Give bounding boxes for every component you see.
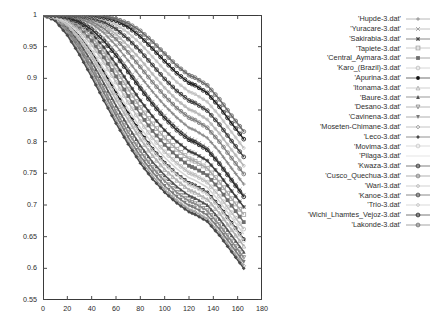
legend-key-star-icon bbox=[405, 34, 431, 44]
legend-label: 'Itonama-3.dat' bbox=[353, 84, 405, 91]
legend-key-triangle-filled-icon bbox=[405, 92, 431, 102]
plot-area bbox=[43, 15, 262, 300]
legend-entry: 'Baure-3.dat' bbox=[268, 92, 431, 102]
chart-legend: 'Hupde-3.dat''Yuracare-3.dat''Sakirabia-… bbox=[268, 14, 431, 224]
legend-label: 'Cusco_Quechua-3.dat' bbox=[325, 172, 405, 179]
y-tick-label: 0.7 bbox=[0, 201, 37, 208]
legend-label: 'Karo_(Brazil)-3.dat' bbox=[337, 64, 405, 71]
legend-key-triangle-open-icon bbox=[405, 83, 431, 93]
legend-key-circle-open-icon bbox=[405, 63, 431, 73]
legend-label: 'Desano-3.dat' bbox=[354, 103, 405, 110]
legend-key-square-filled-icon bbox=[405, 53, 431, 63]
legend-key-square-open-icon bbox=[405, 43, 431, 53]
legend-key-circle-dot-icon bbox=[405, 190, 431, 200]
legend-label: 'Tapiete-3.dat' bbox=[356, 45, 405, 52]
legend-entry: 'Central_Aymara-3.dat' bbox=[268, 53, 431, 63]
legend-key-circle-dot-icon bbox=[405, 171, 431, 181]
legend-label: 'Baure-3.dat' bbox=[360, 94, 405, 101]
legend-entry: 'Desano-3.dat' bbox=[268, 102, 431, 112]
legend-label: 'Pilaga-3.dat' bbox=[359, 152, 405, 159]
legend-label: 'Kwaza-3.dat' bbox=[358, 162, 405, 169]
legend-key-circle-dot-icon bbox=[405, 210, 431, 220]
curve-layer bbox=[43, 15, 262, 300]
y-tick-label: 0.95 bbox=[0, 43, 37, 50]
legend-label: 'Wari-3.dat' bbox=[365, 182, 405, 189]
legend-entry: 'Pilaga-3.dat' bbox=[268, 151, 431, 161]
legend-entry: 'Kanoe-3.dat' bbox=[268, 190, 431, 200]
legend-entry: 'Sakirabia-3.dat' bbox=[268, 34, 431, 44]
y-tick-label: 0.75 bbox=[0, 169, 37, 176]
legend-entry: 'Wari-3.dat' bbox=[268, 181, 431, 191]
legend-key-diamond-filled-icon bbox=[405, 132, 431, 142]
legend-label: 'Sakirabia-3.dat' bbox=[349, 35, 405, 42]
legend-label: 'Hupde-3.dat' bbox=[358, 15, 405, 22]
legend-entry: 'Wichi_Lhamtes_Vejoz-3.dat' bbox=[268, 210, 431, 220]
legend-key-circle-dot-icon bbox=[405, 220, 431, 230]
legend-key-pentagon-open-icon bbox=[405, 141, 431, 151]
y-tick-label: 0.55 bbox=[0, 296, 37, 303]
legend-label: 'Lakonde-3.dat' bbox=[352, 221, 405, 228]
x-tick-label: 180 bbox=[248, 305, 276, 312]
legend-key-circle-small-icon bbox=[405, 181, 431, 191]
legend-key-down-triangle-open-icon bbox=[405, 102, 431, 112]
legend-label: 'Kanoe-3.dat' bbox=[358, 192, 405, 199]
legend-entry: 'Moseten-Chimane-3.dat' bbox=[268, 122, 431, 132]
legend-key-plus-icon bbox=[405, 14, 431, 24]
y-tick-label: 0.9 bbox=[0, 74, 37, 81]
legend-entry: 'Itonama-3.dat' bbox=[268, 83, 431, 93]
legend-entry: 'Kwaza-3.dat' bbox=[268, 161, 431, 171]
legend-entry: 'Karo_(Brazil)-3.dat' bbox=[268, 63, 431, 73]
chart-screenshot: 0.550.60.650.70.750.80.850.90.951 020406… bbox=[0, 0, 431, 329]
legend-entry: 'Leco-3.dat' bbox=[268, 132, 431, 142]
legend-entry: 'Yuracare-3.dat' bbox=[268, 24, 431, 34]
legend-entry: 'Cusco_Quechua-3.dat' bbox=[268, 171, 431, 181]
y-tick-label: 1 bbox=[0, 11, 37, 18]
legend-label: 'Trio-3.dat' bbox=[367, 201, 405, 208]
legend-label: 'Moseten-Chimane-3.dat' bbox=[320, 123, 405, 130]
y-tick-label: 0.65 bbox=[0, 233, 37, 240]
legend-entry: 'Trio-3.dat' bbox=[268, 200, 431, 210]
legend-entry: 'Tapiete-3.dat' bbox=[268, 43, 431, 53]
y-tick-label: 0.6 bbox=[0, 264, 37, 271]
legend-label: 'Wichi_Lhamtes_Vejoz-3.dat' bbox=[308, 211, 405, 218]
legend-entry: 'Apurina-3.dat' bbox=[268, 73, 431, 83]
legend-key-circle-small-icon bbox=[405, 200, 431, 210]
legend-label: 'Leco-3.dat' bbox=[364, 133, 405, 140]
legend-entry: 'Hupde-3.dat' bbox=[268, 14, 431, 24]
legend-key-circle-dot-icon bbox=[405, 161, 431, 171]
legend-key-circle-filled-icon bbox=[405, 73, 431, 83]
legend-entry: 'Cavinena-3.dat' bbox=[268, 112, 431, 122]
legend-label: 'Cavinena-3.dat' bbox=[349, 113, 405, 120]
legend-label: 'Yuracare-3.dat' bbox=[350, 25, 405, 32]
legend-key-down-triangle-filled-icon bbox=[405, 112, 431, 122]
y-tick-label: 0.85 bbox=[0, 106, 37, 113]
legend-label: 'Movima-3.dat' bbox=[354, 143, 405, 150]
legend-entry: 'Lakonde-3.dat' bbox=[268, 220, 431, 230]
legend-label: 'Apurina-3.dat' bbox=[354, 74, 405, 81]
y-tick-label: 0.8 bbox=[0, 138, 37, 145]
legend-key-none-icon bbox=[405, 151, 431, 161]
legend-key-diamond-open-icon bbox=[405, 122, 431, 132]
legend-key-x-icon bbox=[405, 24, 431, 34]
legend-entry: 'Movima-3.dat' bbox=[268, 141, 431, 151]
legend-label: 'Central_Aymara-3.dat' bbox=[327, 54, 405, 61]
